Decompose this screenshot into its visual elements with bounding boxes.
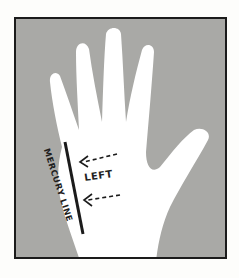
illustration-frame (14, 17, 227, 259)
hand-silhouette (50, 28, 209, 259)
hand-illustration (16, 19, 227, 259)
